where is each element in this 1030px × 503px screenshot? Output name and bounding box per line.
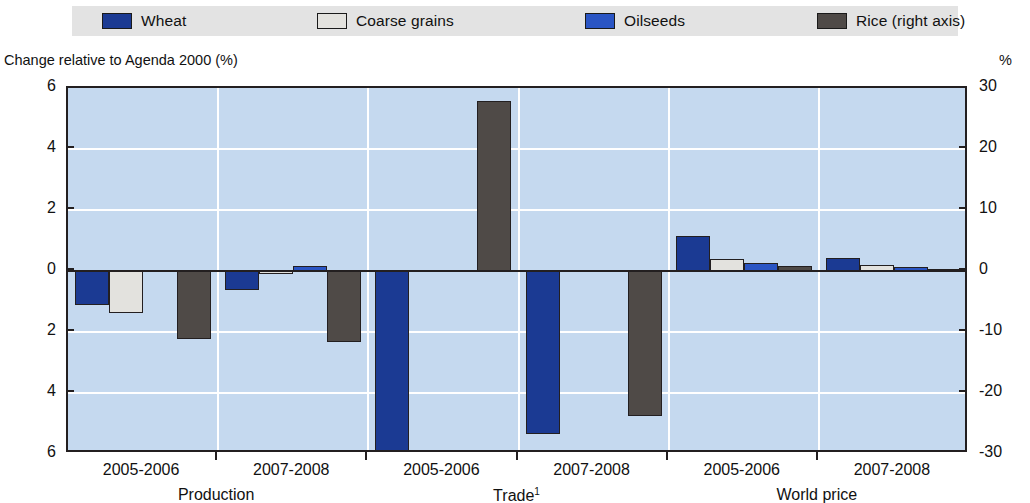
legend-label-rice: Rice (right axis)	[856, 12, 965, 30]
chart-plot-area	[66, 86, 967, 452]
bar-rice-right-axis-group-1	[177, 271, 211, 339]
legend-swatch-coarse_grains-icon	[317, 13, 347, 29]
y-tick-label-right: 30	[979, 77, 1030, 95]
y-tick-label-left: 6	[10, 77, 56, 95]
y-tick-label-left: 2	[10, 199, 56, 217]
gridline-horizontal	[68, 148, 965, 150]
y-tick-label-right: 20	[979, 138, 1030, 156]
gridline-vertical	[367, 88, 369, 450]
gridline-vertical	[818, 88, 820, 450]
bar-rice-right-axis-group-3	[477, 101, 511, 271]
bar-wheat-group-3	[375, 271, 409, 450]
legend-label-wheat: Wheat	[141, 12, 186, 30]
x-period-label-3: 2005-2006	[403, 461, 480, 479]
tick-right	[959, 329, 967, 331]
tick-left	[66, 390, 74, 392]
chart-legend: WheatCoarse grainsOilseedsRice (right ax…	[72, 6, 958, 36]
y-tick-label-right: -20	[979, 382, 1030, 400]
gridline-vertical	[217, 88, 219, 450]
bar-coarse-grains-group-1	[109, 271, 143, 313]
footnote-marker: 1	[534, 486, 540, 497]
tick-right	[959, 146, 967, 148]
zero-line	[68, 270, 965, 272]
bar-rice-right-axis-group-2	[327, 271, 361, 342]
legend-swatch-wheat-icon	[102, 13, 132, 29]
y-tick-label-right: 10	[979, 199, 1030, 217]
gridline-vertical	[668, 88, 670, 450]
tick-left	[66, 146, 74, 148]
y-tick-label-left: 0	[10, 260, 56, 278]
tick-x	[516, 452, 518, 460]
x-section-label-production: Production	[178, 486, 255, 503]
tick-right	[959, 390, 967, 392]
bar-wheat-group-2	[225, 271, 259, 290]
legend-label-oilseeds: Oilseeds	[624, 12, 685, 30]
legend-label-coarse_grains: Coarse grains	[356, 12, 454, 30]
gridline-vertical	[518, 88, 520, 450]
y-tick-label-right: -10	[979, 321, 1030, 339]
bar-rice-right-axis-group-4	[628, 271, 662, 416]
legend-swatch-oilseeds-icon	[585, 13, 615, 29]
x-section-label-trade: Trade1	[493, 486, 540, 503]
tick-left	[66, 207, 74, 209]
plot-inner	[68, 88, 965, 450]
legend-swatch-rice-icon	[817, 13, 847, 29]
x-section-label-text: Trade	[493, 487, 534, 503]
tick-x	[816, 452, 818, 460]
legend-item-wheat[interactable]: Wheat	[102, 6, 186, 36]
y-tick-label-left: 2	[10, 321, 56, 339]
tick-x	[666, 452, 668, 460]
y-tick-label-right: -30	[979, 443, 1030, 461]
bar-wheat-group-5	[676, 236, 710, 271]
y-axis-title: Change relative to Agenda 2000 (%)	[4, 52, 238, 68]
x-period-label-4: 2007-2008	[553, 461, 630, 479]
bar-wheat-group-4	[526, 271, 560, 434]
y-tick-label-left: 6	[10, 443, 56, 461]
y-tick-label-right: 0	[979, 260, 1030, 278]
tick-right	[959, 207, 967, 209]
legend-item-coarse_grains[interactable]: Coarse grains	[317, 6, 454, 36]
x-period-label-5: 2005-2006	[703, 461, 780, 479]
x-section-label-world-price: World price	[777, 486, 858, 503]
gridline-horizontal	[68, 209, 965, 211]
tick-x	[365, 452, 367, 460]
tick-left	[66, 329, 74, 331]
legend-item-rice[interactable]: Rice (right axis)	[817, 6, 965, 36]
x-period-label-6: 2007-2008	[854, 461, 931, 479]
y-tick-label-left: 4	[10, 138, 56, 156]
x-period-label-2: 2007-2008	[253, 461, 330, 479]
right-axis-title: %	[999, 52, 1012, 68]
y-tick-label-left: 4	[10, 382, 56, 400]
x-period-label-1: 2005-2006	[103, 461, 180, 479]
legend-item-oilseeds[interactable]: Oilseeds	[585, 6, 685, 36]
gridline-horizontal	[68, 392, 965, 394]
tick-x	[215, 452, 217, 460]
bar-wheat-group-1	[75, 271, 109, 305]
